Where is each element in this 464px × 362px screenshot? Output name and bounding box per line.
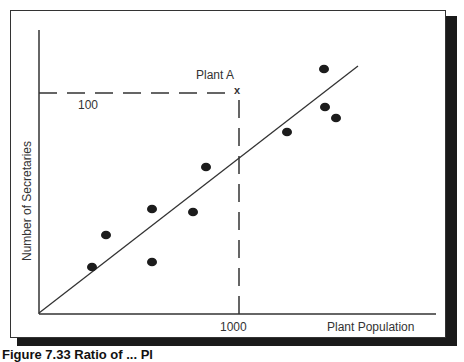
data-point (320, 103, 330, 112)
plant-a-label: Plant A (196, 68, 234, 82)
figure-caption: Figure 7.33 Ratio of ... Pl (2, 347, 153, 362)
x-axis-label: Plant Population (327, 320, 414, 334)
data-point (147, 258, 157, 267)
data-point (87, 263, 97, 272)
data-point (188, 208, 198, 217)
data-point (147, 205, 157, 214)
y-tick-label: 100 (78, 98, 98, 112)
plant-a-marker: x (234, 84, 240, 96)
data-point (201, 163, 211, 172)
data-point (101, 231, 111, 240)
data-point (282, 128, 292, 137)
data-points (87, 65, 341, 272)
data-point (331, 114, 341, 123)
data-point (319, 65, 329, 74)
x-tick-label: 1000 (220, 320, 247, 334)
y-axis-label: Number of Secretaries (20, 141, 34, 261)
